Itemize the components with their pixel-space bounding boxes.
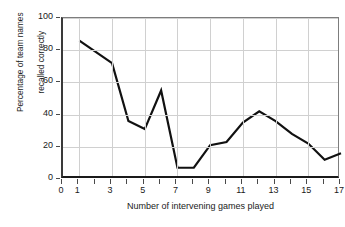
x-tick-mark — [77, 179, 78, 184]
x-tick-mark — [225, 179, 226, 184]
gridline-horizontal — [63, 115, 338, 116]
x-tick-mark — [323, 179, 324, 184]
x-axis: 01357911131517 — [61, 179, 339, 201]
x-tick-mark — [306, 179, 307, 184]
y-tick-label: 40 — [23, 108, 53, 118]
gridline-vertical — [112, 18, 113, 176]
x-tick-label: 5 — [133, 185, 153, 195]
y-tick-label: 20 — [23, 140, 53, 150]
gridline-vertical — [276, 18, 277, 176]
gridline-vertical — [145, 18, 146, 176]
x-tick-mark — [192, 179, 193, 184]
x-axis-title: Number of intervening games played — [58, 201, 343, 211]
y-tick-label: 60 — [23, 75, 53, 85]
gridline-vertical — [210, 18, 211, 176]
x-tick-mark — [110, 179, 111, 184]
x-tick-mark — [143, 179, 144, 184]
x-tick-mark — [241, 179, 242, 184]
x-tick-label: 13 — [264, 185, 284, 195]
x-tick-label: 7 — [165, 185, 185, 195]
y-tick-label: 0 — [23, 172, 53, 182]
gridline-horizontal — [63, 18, 338, 19]
y-tick-mark — [56, 17, 60, 18]
x-tick-label: 3 — [100, 185, 120, 195]
x-tick-label: 9 — [198, 185, 218, 195]
gridline-horizontal — [63, 147, 338, 148]
y-tick-label: 100 — [23, 11, 53, 21]
y-tick-mark — [56, 178, 60, 179]
line-chart: Percentage of team names recalled correc… — [0, 0, 345, 227]
x-tick-mark — [290, 179, 291, 184]
x-tick-mark — [61, 179, 62, 184]
x-tick-label: 11 — [231, 185, 251, 195]
x-tick-mark — [274, 179, 275, 184]
x-tick-label: 1 — [67, 185, 87, 195]
gridline-vertical — [79, 18, 80, 176]
x-tick-mark — [175, 179, 176, 184]
y-tick-mark — [56, 49, 60, 50]
x-tick-mark — [159, 179, 160, 184]
y-tick-label: 80 — [23, 43, 53, 53]
x-tick-mark — [94, 179, 95, 184]
x-tick-mark — [339, 179, 340, 184]
x-tick-label: 15 — [296, 185, 316, 195]
gridline-vertical — [243, 18, 244, 176]
y-tick-mark — [56, 81, 60, 82]
data-line — [63, 18, 341, 179]
gridline-horizontal — [63, 50, 338, 51]
y-tick-mark — [56, 146, 60, 147]
plot-area — [61, 17, 339, 178]
y-axis: 020406080100 — [0, 17, 61, 178]
x-tick-mark — [208, 179, 209, 184]
gridline-vertical — [308, 18, 309, 176]
gridline-vertical — [177, 18, 178, 176]
x-tick-mark — [257, 179, 258, 184]
x-tick-mark — [126, 179, 127, 184]
y-tick-mark — [56, 114, 60, 115]
x-tick-label: 17 — [329, 185, 345, 195]
gridline-horizontal — [63, 82, 338, 83]
